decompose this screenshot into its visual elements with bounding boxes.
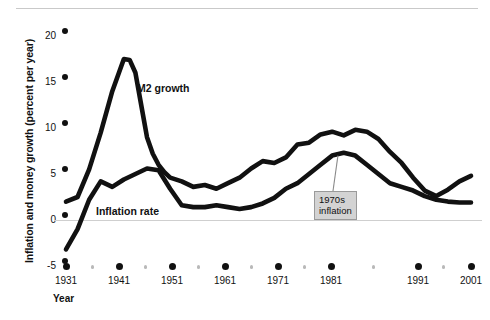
annotation-1970s-inflation: 1970s inflation xyxy=(314,191,357,220)
annotation-line-2: inflation xyxy=(319,205,352,216)
chart-plot-svg xyxy=(0,0,490,320)
chart-figure: Inflation and money growth (percent per … xyxy=(0,0,490,320)
series-label-m2-growth: M2 growth xyxy=(137,82,190,94)
series-line-inflation-rate xyxy=(66,153,471,250)
series-label-inflation-rate: Inflation rate xyxy=(96,205,159,217)
annotation-leader-line xyxy=(333,156,338,191)
annotation-line-1: 1970s xyxy=(319,194,352,205)
